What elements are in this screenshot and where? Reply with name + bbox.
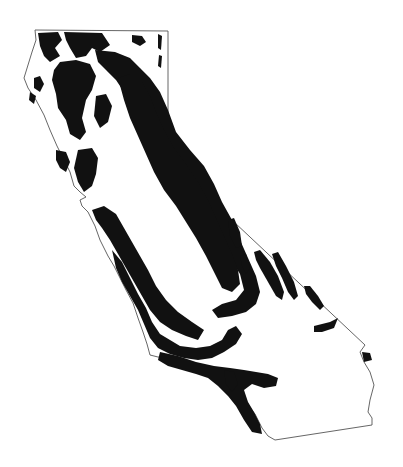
california-distribution-map (0, 0, 403, 467)
